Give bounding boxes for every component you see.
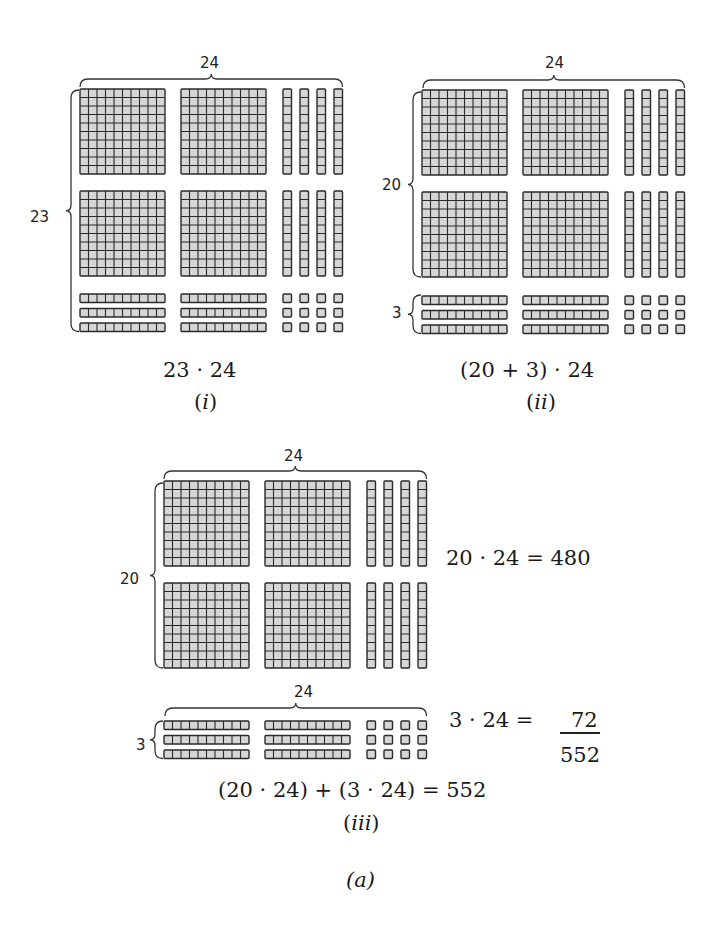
panel-ii-ten-strip [422, 325, 507, 334]
panel-ii-ten-rod [625, 90, 634, 175]
panel-iii-hundred-block [265, 481, 350, 566]
panel-i-unit-cube [334, 323, 343, 332]
panel-iii-side-brace-3 [150, 721, 163, 759]
panel-iii-ten-rod [401, 583, 410, 668]
panel-ii-caption: (ii) [526, 392, 556, 413]
panel-iii-unit-cube [401, 721, 410, 730]
panel-ii-side-brace-20 [408, 92, 421, 277]
panel-i-ten-rod [300, 89, 309, 174]
panel-iii-ten-rod [367, 481, 376, 566]
panel-i-unit-cube [283, 309, 292, 318]
panel-iii-unit-cube [401, 736, 410, 745]
panel-i-ten-strip [181, 309, 266, 318]
panel-iii-ten-rod [418, 583, 427, 668]
panel-i-ten-strip [80, 294, 165, 303]
panel-ii-ten-rod [676, 90, 685, 175]
panel-ii-unit-cube [659, 296, 668, 305]
panel-iii-expression: (20 · 24) + (3 · 24) = 552 [218, 780, 486, 801]
panel-ii-side-label-3: 3 [392, 306, 402, 321]
panel-iii-ten-rod [384, 583, 393, 668]
panel-iii-bottom-brace [165, 703, 427, 716]
panel-ii-hundred-block [523, 90, 608, 175]
panel-i-unit-cube [317, 309, 326, 318]
panel-ii-unit-cube [659, 325, 668, 334]
panel-iii-side-brace-20 [150, 483, 163, 668]
panel-ii-unit-cube [659, 311, 668, 320]
panel-iii-ten-strip [265, 750, 350, 759]
panel-iii-unit-cube [384, 736, 393, 745]
panel-ii-unit-cube [642, 325, 651, 334]
panel-i-caption: (i) [194, 392, 217, 413]
panel-iii-equation-3x24: 3 · 24 = [449, 710, 533, 731]
panel-i-ten-rod [283, 89, 292, 174]
panel-i-hundred-block [181, 89, 266, 174]
panel-iii-caption: (iii) [343, 813, 380, 834]
panel-ii-unit-cube [625, 296, 634, 305]
panel-i-unit-cube [283, 294, 292, 303]
panel-iii-top-brace [164, 466, 427, 479]
panel-i-ten-rod [334, 89, 343, 174]
panel-iii-unit-cube [384, 721, 393, 730]
panel-i-unit-cube [300, 323, 309, 332]
panel-ii-ten-strip [523, 296, 608, 305]
panel-i-ten-rod [300, 191, 309, 276]
panel-iii-ten-strip [265, 721, 350, 730]
panel-iii-unit-cube [401, 750, 410, 759]
panel-iii-ten-strip [164, 736, 249, 745]
panel-i-unit-cube [300, 294, 309, 303]
panel-ii-unit-cube [676, 325, 685, 334]
panel-i-side-label-23: 23 [30, 210, 49, 225]
panel-i-unit-cube [317, 294, 326, 303]
panel-ii-ten-strip [422, 296, 507, 305]
panel-iii-ten-rod [384, 481, 393, 566]
panel-iii-unit-cube [418, 750, 427, 759]
panel-iii-ten-strip [164, 721, 249, 730]
panel-iii-unit-cube [367, 721, 376, 730]
panel-i-ten-rod [317, 89, 326, 174]
panel-ii-side-brace-3 [408, 295, 421, 334]
panel-i-side-brace [66, 90, 79, 332]
panel-iii-sum-rule [560, 732, 600, 734]
panel-iii-unit-cube [418, 721, 427, 730]
panel-ii-ten-rod [625, 192, 634, 277]
panel-ii-ten-strip [422, 311, 507, 320]
panel-iii-ten-rod [367, 583, 376, 668]
panel-ii-ten-rod [642, 90, 651, 175]
panel-iii-ten-rod [401, 481, 410, 566]
panel-i-unit-cube [334, 309, 343, 318]
panel-iii-bottom-brace-label: 24 [294, 685, 313, 700]
panel-i-ten-rod [283, 191, 292, 276]
panel-iii-hundred-block [265, 583, 350, 668]
panel-ii-ten-strip [523, 311, 608, 320]
panel-iii-side-label-20: 20 [120, 572, 139, 587]
panel-i-ten-rod [317, 191, 326, 276]
panel-ii-top-brace [423, 75, 685, 88]
panel-ii-unit-cube [676, 311, 685, 320]
panel-ii-hundred-block [422, 90, 507, 175]
panel-ii-ten-strip [523, 325, 608, 334]
panel-i-hundred-block [80, 191, 165, 276]
panel-i-ten-strip [181, 294, 266, 303]
panel-ii-hundred-block [523, 192, 608, 277]
panel-ii-unit-cube [676, 296, 685, 305]
panel-iii-unit-cube [418, 736, 427, 745]
panel-i-top-brace-label: 24 [200, 56, 219, 71]
panel-iii-equation-20x24: 20 · 24 = 480 [446, 548, 591, 569]
panel-iii-hundred-block [164, 481, 249, 566]
panel-iii-ten-strip [265, 736, 350, 745]
panel-ii-top-brace-label: 24 [545, 56, 564, 71]
panel-iii-ten-rod [418, 481, 427, 566]
panel-i-top-brace [80, 74, 343, 87]
panel-ii-ten-rod [642, 192, 651, 277]
panel-ii-hundred-block [422, 192, 507, 277]
panel-ii-ten-rod [676, 192, 685, 277]
panel-i-ten-strip [181, 323, 266, 332]
panel-iii-unit-cube [367, 750, 376, 759]
panel-i-hundred-block [181, 191, 266, 276]
panel-ii-unit-cube [625, 311, 634, 320]
panel-iii-unit-cube [367, 736, 376, 745]
panel-i-unit-cube [334, 294, 343, 303]
panel-iii-addend-72: 72 [571, 710, 598, 731]
panel-ii-ten-rod [659, 90, 668, 175]
panel-iii-ten-strip [164, 750, 249, 759]
